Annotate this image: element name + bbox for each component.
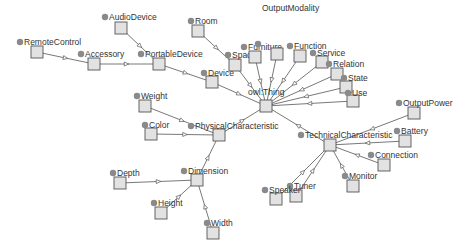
node-Connection[interactable]: Connection [368,150,418,171]
node-OutputPower[interactable]: OutputPower [396,98,453,119]
node-Weight[interactable]: Weight [134,91,168,112]
arrowhead-icon [355,154,360,158]
node-label: AudioDevice [109,12,157,22]
node-label: PortableDevice [145,49,203,59]
node-Dimension[interactable]: Dimension [181,166,229,186]
class-box-icon[interactable] [408,107,420,119]
class-box-icon[interactable] [115,22,127,34]
class-dot-icon [78,51,84,57]
class-dot-icon [188,123,194,129]
class-dot-icon [204,220,210,226]
class-dot-icon [298,132,304,138]
class-hierarchy-graph: owl:ThingRemoteControlAccessoryAudioDevi… [0,0,459,251]
node-label: Accessory [85,49,125,59]
class-box-icon[interactable] [155,207,167,219]
arrowhead-icon [124,62,129,66]
node-Battery[interactable]: Battery [394,126,429,147]
node-label: OutputPower [403,98,453,108]
edge-Depth-to-Dimension [120,180,197,184]
class-box-icon[interactable] [31,46,43,58]
node-label: RemoteControl [24,37,81,47]
class-box-icon[interactable] [192,25,204,37]
arrowhead-icon [236,91,241,95]
class-dot-icon [341,75,347,81]
class-box-icon[interactable] [114,177,126,189]
class-dot-icon [102,14,108,20]
node-Room[interactable]: Room [188,16,218,37]
class-box-icon[interactable] [294,50,306,62]
class-dot-icon [134,93,140,99]
class-dot-icon [110,170,116,176]
node-label: Speaker [269,185,301,195]
class-dot-icon [396,100,402,106]
arrowhead-icon [204,204,208,209]
arrowhead-icon [258,79,262,84]
node-label: OutputModality [262,3,320,13]
class-dot-icon [142,122,148,128]
class-box-icon[interactable] [88,58,100,70]
node-owlThing[interactable]: owl:Thing [248,87,285,112]
node-Accessory[interactable]: Accessory [78,49,125,70]
class-box-icon[interactable] [229,59,241,71]
node-label: Monitor [349,171,378,181]
arrowhead-icon [270,77,274,82]
class-box-icon[interactable] [207,227,219,239]
node-label: Room [195,16,218,26]
arrowhead-icon [304,94,309,98]
arrowhead-icon [299,87,304,91]
class-box-icon[interactable] [139,100,151,112]
node-label: Depth [117,168,140,178]
class-dot-icon [287,43,293,49]
node-Depth[interactable]: Depth [110,168,140,189]
arrowhead-icon [183,132,188,136]
class-box-icon[interactable] [347,180,359,192]
class-box-icon[interactable] [324,139,336,151]
class-dot-icon [151,200,157,206]
class-dot-icon [342,173,348,179]
node-label: Relation [333,59,364,69]
node-label: Weight [141,91,168,101]
node-label: Service [317,48,346,58]
arrowhead-icon [63,56,68,60]
arrowhead-icon [183,70,188,74]
edge-Battery-to-TechnicalCharacteristic [330,141,405,145]
class-dot-icon [262,187,268,193]
arrowhead-icon [310,169,314,174]
arrowhead-icon [179,118,184,122]
node-label: PhysicalCharacteristic [195,121,279,131]
class-box-icon[interactable] [399,135,411,147]
class-dot-icon [201,70,207,76]
class-box-icon[interactable] [249,51,261,63]
arrowhead-icon [340,164,344,169]
node-PortableDevice[interactable]: PortableDevice [138,49,203,70]
class-dot-icon [326,61,332,67]
arrowhead-icon [156,180,161,184]
node-label: State [348,73,368,83]
node-label: Dimension [188,166,228,176]
node-PhysicalCharacteristic[interactable]: PhysicalCharacteristic [188,121,280,141]
node-Height[interactable]: Height [151,198,183,219]
class-dot-icon [188,18,194,24]
node-Monitor[interactable]: Monitor [342,171,378,192]
node-label: owl:Thing [248,87,285,97]
class-dot-icon [310,50,316,56]
class-box-icon[interactable] [271,48,283,60]
arrowhead-icon [296,124,301,128]
node-Width[interactable]: Width [204,218,233,239]
node-AudioDevice[interactable]: AudioDevice [102,12,157,34]
node-label: Use [352,88,367,98]
edge-Color-to-PhysicalCharacteristic [151,132,219,136]
arrowhead-icon [365,141,370,145]
class-box-icon[interactable] [378,159,390,171]
class-dot-icon [345,90,351,96]
nodes-layer: owl:ThingRemoteControlAccessoryAudioDevi… [17,3,453,239]
class-box-icon[interactable] [153,58,165,70]
node-TechnicalCharacteristic[interactable]: TechnicalCharacteristic [298,130,393,151]
class-dot-icon [181,168,187,174]
arrowhead-icon [282,78,286,83]
class-box-icon[interactable] [260,100,272,112]
node-Color[interactable]: Color [142,120,170,140]
node-label: Color [149,120,169,130]
class-dot-icon [138,51,144,57]
node-Use[interactable]: Use [345,88,368,107]
